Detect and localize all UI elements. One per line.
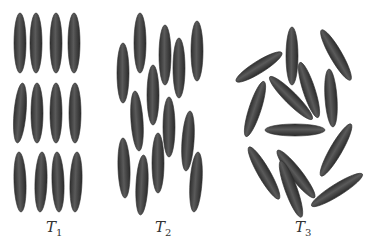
label-t3-main: T [295, 218, 305, 236]
panel-t3 [233, 27, 366, 219]
rod-molecule [147, 65, 159, 125]
label-t1: T1 [46, 218, 62, 238]
rod-molecule [316, 27, 355, 83]
rod-molecule [134, 13, 146, 73]
rod-molecule [134, 155, 149, 216]
rod-molecule [308, 169, 365, 211]
rod-molecule [11, 83, 28, 144]
rod-molecule [30, 13, 42, 73]
rod-molecule [323, 69, 339, 128]
rod-molecule [129, 91, 145, 152]
label-t2-main: T [155, 218, 165, 236]
rod-molecule [50, 13, 62, 73]
rod-molecule [50, 83, 62, 143]
rod-molecule [31, 83, 43, 143]
rod-molecule [13, 152, 27, 212]
liquid-crystal-diagram [0, 0, 371, 250]
rod-molecule [152, 133, 164, 193]
rod-molecule [14, 13, 26, 73]
rod-molecule [117, 43, 129, 103]
rod-molecule [69, 152, 83, 212]
rod-molecule [159, 25, 171, 85]
rod-molecule [51, 152, 65, 212]
panel-t1 [11, 13, 83, 212]
rod-molecule [173, 38, 185, 98]
label-t2-subscript: 2 [165, 227, 171, 238]
rod-molecule [68, 13, 80, 73]
rod-molecule [286, 27, 298, 85]
rod-molecule [117, 138, 131, 198]
panel-t2 [117, 13, 204, 215]
label-t3: T3 [295, 218, 311, 238]
rod-molecule [34, 152, 48, 212]
label-t1-subscript: 1 [56, 227, 62, 238]
label-t1-main: T [46, 218, 56, 236]
rod-molecule [265, 124, 325, 136]
label-t2: T2 [155, 218, 171, 238]
rod-molecule [191, 21, 203, 81]
label-t3-subscript: 3 [305, 227, 311, 238]
rod-molecule [69, 83, 81, 143]
rod-molecule [163, 97, 175, 157]
